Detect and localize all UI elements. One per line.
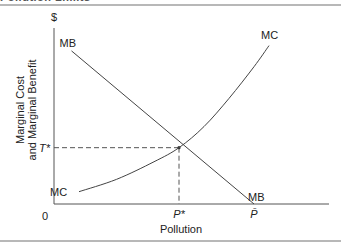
curve-mb <box>72 51 255 204</box>
mb-label-start: MB <box>60 37 77 49</box>
x-axis-label: Pollution <box>160 223 202 235</box>
x-tick-label-1: P̄ <box>250 208 258 220</box>
chart: $ 0 Pollution Marginal Cost and Marginal… <box>0 0 341 244</box>
y-axis-label-line2: and Marginal Benefit <box>26 60 38 161</box>
mc-label-end: MC <box>261 29 278 41</box>
mc-label-start: MC <box>50 186 67 198</box>
x-tick-label-0: P* <box>173 208 185 220</box>
y-tick-label-0: T* <box>39 142 51 154</box>
mb-label-end: MB <box>248 191 265 203</box>
origin-label: 0 <box>42 210 48 222</box>
y-axis-label-line1: Marginal Cost <box>14 76 26 144</box>
y-axis-unit-label: $ <box>51 11 57 23</box>
curve-mc <box>79 46 269 192</box>
